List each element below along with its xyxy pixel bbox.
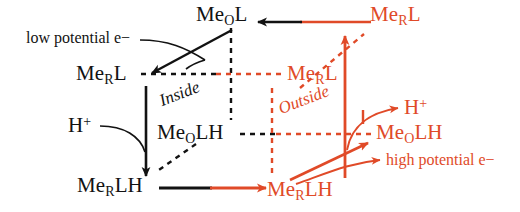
label-proton-outside: H+ xyxy=(404,97,427,118)
species-meolh-inside: MeOLH xyxy=(157,122,224,146)
species-merl-inside: MeRL xyxy=(76,63,127,87)
species-merl-outside-top: MeRL xyxy=(370,4,421,28)
species-meol-inside: MeOL xyxy=(196,4,247,28)
label-proton-inside: H+ xyxy=(68,115,91,136)
reaction-scheme-diagram: MeOL MeRL MeOLH MeRLH MeRL MeRL MeOLH Me… xyxy=(0,0,520,212)
edge-merlh-out-to-meolh-out xyxy=(290,143,368,180)
label-high-potential-electron: high potential e− xyxy=(386,152,495,168)
species-merl-outside-mid: MeRL xyxy=(287,63,338,87)
edge-low-potential-electron xyxy=(140,30,232,73)
species-merlh-inside: MeRLH xyxy=(77,175,143,199)
edge-meolh-to-merlh-dashed xyxy=(156,144,196,172)
label-low-potential-electron: low potential e− xyxy=(26,30,130,46)
species-meolh-outside: MeOLH xyxy=(376,122,443,146)
edge-proton-in-curve xyxy=(100,126,145,152)
species-merlh-outside: MeRLH xyxy=(267,179,333,203)
